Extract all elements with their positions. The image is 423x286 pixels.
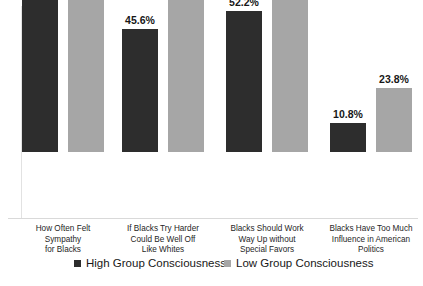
x-tick-label-1-line-3: for Blacks (14, 245, 112, 256)
bar-group-4: 10.8% 23.8% (330, 0, 412, 152)
x-tick-label-2-line-1: If Blacks Try Harder (114, 224, 212, 235)
bar-high-3 (226, 11, 262, 152)
x-tick-label-1-line-2: Sympathy (14, 235, 112, 246)
legend-label-high: High Group Consciousness (86, 257, 226, 270)
x-tick-label-2-line-2: Could Be Well Off (114, 235, 212, 246)
bar-value-high-3: 52.2% (229, 0, 259, 8)
x-tick-label-4-line-2: Influence in American (320, 235, 422, 246)
legend-item-low-group-consciousness[interactable]: Low Group Consciousness (224, 257, 373, 270)
bar-low-3 (272, 0, 308, 152)
legend-swatch-icon-low (224, 260, 231, 267)
x-tick-label-4-line-1: Blacks Have Too Much (320, 224, 422, 235)
chart-legend: High Group Consciousness Low Group Consc… (0, 257, 423, 277)
x-tick-label-2-line-3: Like Whites (114, 245, 212, 256)
legend-item-high-group-consciousness[interactable]: High Group Consciousness (74, 257, 226, 270)
x-tick-label-3-line-3: Special Favors (218, 245, 316, 256)
x-tick-label-2: If Blacks Try Harder Could Be Well Off L… (114, 224, 212, 256)
bar-value-low-4: 23.8% (379, 74, 409, 85)
x-tick-label-1: How Often Felt Sympathy for Blacks (14, 224, 112, 256)
bar-low-2 (168, 0, 204, 152)
x-tick-label-3-line-1: Blacks Should Work (218, 224, 316, 235)
bar-value-high-4: 10.8% (333, 109, 363, 120)
bar-high-2 (122, 29, 158, 152)
legend-swatch-icon-high (74, 260, 81, 267)
bar-high-4 (330, 123, 366, 152)
bar-chart: 71.5% 61.1% 45.6% 59.2% 52.2% (0, 0, 423, 286)
bar-group-1: 71.5% 61.1% (22, 0, 104, 152)
legend-label-low: Low Group Consciousness (236, 257, 373, 270)
bar-low-4 (376, 88, 412, 152)
x-axis-line (8, 218, 418, 219)
x-tick-label-4-line-3: Politics (320, 245, 422, 256)
bar-low-1 (68, 0, 104, 152)
x-tick-label-3-line-2: Way Up without (218, 235, 316, 246)
bar-value-high-2: 45.6% (125, 15, 155, 26)
x-tick-label-4: Blacks Have Too Much Influence in Americ… (320, 224, 422, 256)
x-tick-label-3: Blacks Should Work Way Up without Specia… (218, 224, 316, 256)
bar-group-2: 45.6% 59.2% (122, 0, 204, 152)
x-tick-label-1-line-1: How Often Felt (14, 224, 112, 235)
bar-group-3: 52.2% 68.6% (226, 0, 308, 152)
bar-high-1 (22, 0, 58, 152)
plot-area: 71.5% 61.1% 45.6% 59.2% 52.2% (0, 0, 423, 220)
